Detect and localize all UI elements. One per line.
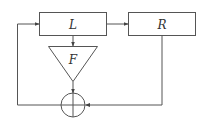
feistel-diagram: L R F [0,0,207,122]
label-l: L [68,18,77,32]
arrow-sum-to-l [18,24,62,105]
arrow-r-to-sum [86,36,163,106]
label-r: R [156,18,166,32]
label-f: F [68,53,78,67]
